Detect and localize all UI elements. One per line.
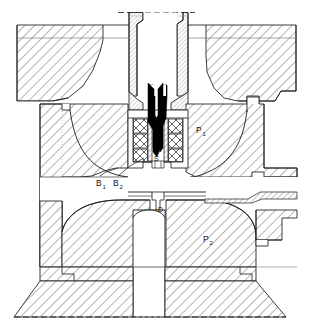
torpedo-wall-right <box>164 119 168 161</box>
label-s: S <box>154 155 159 162</box>
label-b2: B <box>113 178 119 188</box>
label-b1: B <box>96 178 102 188</box>
insulator-block-right-top <box>168 119 182 133</box>
ejector-pin <box>133 210 165 317</box>
cross-section-svg: B 1 B 2 P 1 P 2 S D <box>0 0 312 329</box>
drawing-geometry <box>14 13 297 318</box>
insulator-block-left-top <box>134 119 148 133</box>
technical-drawing-figure: B 1 B 2 P 1 P 2 S D <box>0 0 312 329</box>
insulator-block-right-bottom <box>168 149 182 162</box>
runner-flange-notch <box>256 240 268 246</box>
label-d: D <box>158 206 163 213</box>
base-platen-top-left <box>40 267 133 281</box>
insulator-block-right-mid <box>168 134 182 148</box>
cavity-plate-lower-left-rail <box>40 201 62 267</box>
insulator-block-left-mid <box>134 134 148 148</box>
cavity-left-notch <box>62 104 70 110</box>
sprue-bushing-wall-right <box>177 13 188 97</box>
label-p1: P <box>196 125 202 135</box>
label-p2: P <box>203 234 209 244</box>
cavity-right-step <box>247 97 259 104</box>
upper-platen-right <box>206 25 296 101</box>
nozzle-gate-exit <box>152 161 164 168</box>
